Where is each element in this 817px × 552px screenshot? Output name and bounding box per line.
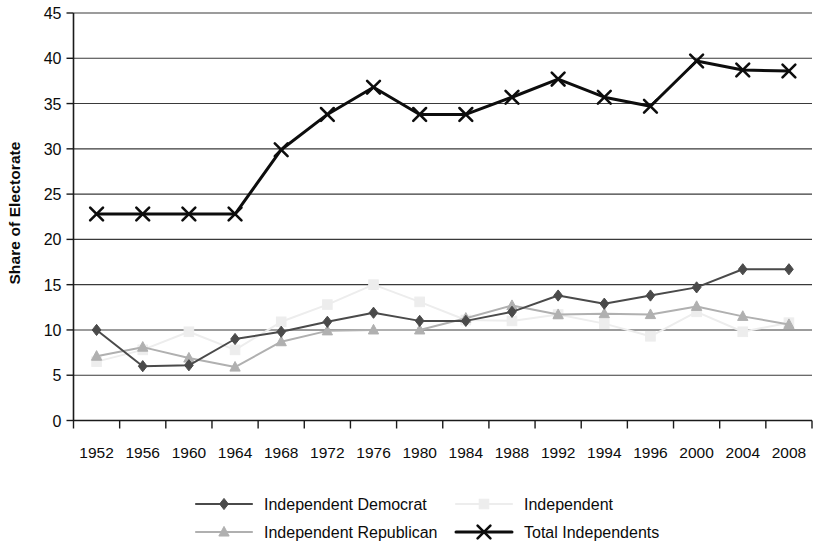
x-tick-label: 2000 bbox=[679, 444, 714, 461]
x-tick-label: 2004 bbox=[726, 444, 761, 461]
x-tick-label: 1992 bbox=[541, 444, 575, 461]
y-tick-label: 40 bbox=[44, 50, 62, 67]
data-point-marker bbox=[691, 301, 701, 311]
legend-item-total-independents[interactable]: Total Independents bbox=[456, 524, 659, 541]
data-point-marker bbox=[231, 333, 240, 344]
x-tick-label: 1968 bbox=[264, 444, 298, 461]
y-tick-label: 0 bbox=[53, 413, 62, 430]
line-chart-plot: 051015202530354045 195219561960196419681… bbox=[0, 0, 817, 552]
data-point-marker bbox=[184, 327, 194, 337]
data-point-marker bbox=[599, 319, 609, 329]
x-tick-label: 1984 bbox=[449, 444, 484, 461]
series-independent-democrat bbox=[92, 264, 793, 372]
axes-group bbox=[73, 13, 812, 421]
series-line bbox=[97, 61, 789, 214]
data-point-marker bbox=[323, 300, 333, 310]
x-tick-label: 1976 bbox=[356, 444, 390, 461]
data-point-marker bbox=[415, 297, 425, 307]
data-point-marker bbox=[321, 108, 334, 121]
x-tick-label: 1994 bbox=[587, 444, 622, 461]
data-point-marker bbox=[275, 143, 288, 156]
y-tick-label: 20 bbox=[44, 231, 62, 248]
x-tick-label: 1988 bbox=[495, 444, 529, 461]
x-axis-labels-group: 1952195619601964196819721976198019841988… bbox=[79, 444, 806, 461]
data-series-group bbox=[90, 55, 795, 372]
data-point-marker bbox=[552, 73, 565, 86]
legend-sample-marker bbox=[220, 498, 229, 509]
x-tick-label: 1964 bbox=[218, 444, 253, 461]
x-tick-label: 1960 bbox=[172, 444, 207, 461]
legend-label: Independent Democrat bbox=[264, 496, 427, 513]
legend-sample-marker bbox=[479, 499, 489, 509]
data-point-marker bbox=[230, 345, 240, 355]
legend-item-independent-republican[interactable]: Independent Republican bbox=[196, 524, 437, 541]
x-tick-label: 1996 bbox=[633, 444, 667, 461]
y-tick-label: 10 bbox=[44, 322, 62, 339]
y-tick-label: 45 bbox=[44, 5, 62, 22]
x-tick-label: 1956 bbox=[125, 444, 159, 461]
data-point-marker bbox=[738, 264, 747, 275]
legend-label: Independent bbox=[524, 496, 614, 513]
data-point-marker bbox=[369, 280, 379, 290]
data-point-marker bbox=[415, 315, 424, 326]
series-total-independents bbox=[90, 55, 795, 221]
x-tick-label: 2008 bbox=[772, 444, 806, 461]
data-point-marker bbox=[138, 361, 147, 372]
data-point-marker bbox=[692, 282, 701, 293]
data-point-marker bbox=[554, 290, 563, 301]
x-tick-label: 1952 bbox=[79, 444, 113, 461]
data-point-marker bbox=[92, 324, 101, 335]
data-point-marker bbox=[738, 327, 748, 337]
y-tick-label: 15 bbox=[44, 277, 62, 294]
data-point-marker bbox=[506, 91, 519, 104]
legend-item-independent-democrat[interactable]: Independent Democrat bbox=[196, 496, 427, 513]
y-axis-ticks-group: 051015202530354045 bbox=[44, 5, 74, 430]
y-tick-label: 5 bbox=[53, 367, 62, 384]
data-point-marker bbox=[276, 317, 286, 327]
data-point-marker bbox=[600, 298, 609, 309]
x-tick-label: 1980 bbox=[402, 444, 437, 461]
data-point-marker bbox=[323, 316, 332, 327]
y-tick-label: 25 bbox=[44, 186, 62, 203]
legend-label: Independent Republican bbox=[264, 524, 437, 541]
legend-item-independent[interactable]: Independent bbox=[456, 496, 614, 513]
chart-container: Share of Electorate 051015202530354045 1… bbox=[0, 0, 817, 552]
data-point-marker bbox=[646, 331, 656, 341]
data-point-marker bbox=[367, 81, 380, 94]
y-tick-label: 35 bbox=[44, 96, 62, 113]
data-point-marker bbox=[369, 307, 378, 318]
x-axis-ticks-group bbox=[74, 421, 813, 429]
chart-legend: Independent DemocratIndependentIndepende… bbox=[196, 496, 659, 541]
y-tick-label: 30 bbox=[44, 141, 62, 158]
data-point-marker bbox=[785, 264, 794, 275]
data-point-marker bbox=[646, 290, 655, 301]
x-tick-label: 1972 bbox=[310, 444, 344, 461]
legend-label: Total Independents bbox=[524, 524, 659, 541]
data-point-marker bbox=[277, 326, 286, 337]
